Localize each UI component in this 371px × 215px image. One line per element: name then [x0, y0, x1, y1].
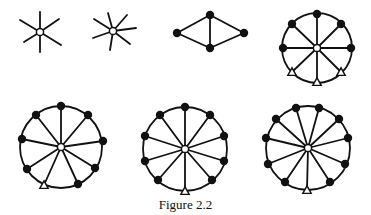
- solid-node: [99, 137, 107, 145]
- graph-star-6: [20, 12, 61, 52]
- solid-node: [288, 20, 296, 28]
- solid-node: [335, 115, 343, 123]
- figure-caption: Figure 2.2: [0, 197, 371, 213]
- solid-node: [156, 111, 164, 119]
- solid-node: [23, 165, 31, 173]
- triangle-node: [313, 78, 321, 86]
- open-hub-node: [313, 44, 320, 51]
- solid-node: [279, 44, 287, 52]
- graph-star-7: [93, 13, 136, 50]
- solid-node: [18, 135, 26, 143]
- graph-wheel-8: [279, 10, 355, 86]
- solid-node: [347, 44, 355, 52]
- solid-node: [91, 164, 99, 172]
- open-hub-node: [36, 28, 43, 35]
- solid-node: [220, 132, 228, 140]
- solid-node: [281, 178, 289, 186]
- solid-node: [341, 160, 349, 168]
- solid-node: [141, 157, 149, 165]
- solid-node: [326, 178, 334, 186]
- graph-diamond: [173, 11, 248, 52]
- solid-node: [173, 29, 181, 37]
- solid-node: [315, 104, 323, 112]
- solid-node: [262, 134, 270, 142]
- solid-node: [57, 102, 65, 110]
- solid-node: [206, 111, 214, 119]
- solid-node: [240, 29, 248, 37]
- solid-node: [206, 44, 214, 52]
- open-hub-node: [109, 27, 116, 34]
- solid-node: [313, 10, 321, 18]
- solid-node: [264, 160, 272, 168]
- solid-node: [74, 180, 82, 188]
- graph-wheel-10: [141, 103, 228, 195]
- graph-wheel-9: [18, 102, 107, 189]
- solid-node: [84, 111, 92, 119]
- open-hub-node: [181, 145, 188, 152]
- open-hub-node: [57, 143, 64, 150]
- solid-node: [154, 176, 162, 184]
- solid-node: [141, 132, 149, 140]
- solid-node: [181, 103, 189, 111]
- solid-node: [206, 11, 214, 19]
- solid-node: [344, 134, 352, 142]
- solid-node: [220, 157, 228, 165]
- solid-node: [272, 115, 280, 123]
- solid-node: [208, 176, 216, 184]
- solid-node: [32, 111, 40, 119]
- solid-node: [292, 104, 300, 112]
- solid-node: [337, 20, 345, 28]
- open-hub-node: [304, 144, 311, 151]
- figure-canvas: [0, 0, 371, 215]
- graph-wheel-11: [262, 104, 352, 194]
